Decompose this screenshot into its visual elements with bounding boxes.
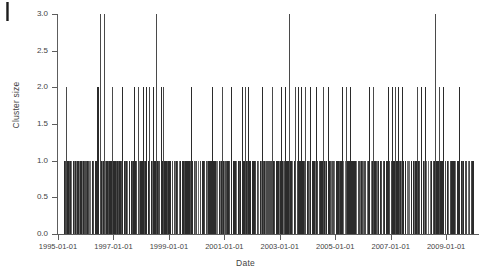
data-spike xyxy=(191,87,192,234)
x-tick-mark xyxy=(169,235,170,240)
data-spike xyxy=(104,14,105,234)
data-spike xyxy=(138,87,139,234)
y-tick-mark xyxy=(52,51,57,52)
data-spike xyxy=(445,161,446,234)
data-spike xyxy=(473,161,474,234)
data-spike xyxy=(204,161,205,234)
data-spike xyxy=(350,87,351,234)
data-spike xyxy=(421,87,422,234)
x-axis-title: Date xyxy=(0,258,491,268)
data-spike xyxy=(231,87,232,234)
data-spike xyxy=(439,87,440,234)
data-spike xyxy=(395,87,396,234)
y-tick-mark xyxy=(52,87,57,88)
data-spike xyxy=(316,87,317,234)
data-spike xyxy=(272,87,273,234)
data-spike xyxy=(122,87,123,234)
x-tick-mark xyxy=(58,235,59,240)
data-spike xyxy=(425,87,426,234)
data-spike xyxy=(381,161,382,234)
plot-area xyxy=(58,14,478,234)
data-spike xyxy=(177,161,178,234)
y-axis-title: Cluster size xyxy=(11,65,21,145)
data-spike xyxy=(146,87,147,234)
data-spike xyxy=(459,87,460,234)
data-spike xyxy=(198,161,199,234)
y-tick-mark xyxy=(52,234,57,235)
x-tick-mark xyxy=(335,235,336,240)
data-spike xyxy=(149,87,150,234)
x-tick-mark xyxy=(224,235,225,240)
data-spike xyxy=(163,87,164,234)
data-spike xyxy=(129,161,130,234)
data-spike xyxy=(192,161,193,234)
data-spike xyxy=(310,87,311,234)
y-tick-label: 0.0 xyxy=(18,230,48,238)
data-spike xyxy=(262,87,263,234)
data-spike xyxy=(435,14,436,234)
data-spike xyxy=(305,87,306,234)
data-spike xyxy=(443,87,444,234)
figure: Cluster size Date 0.00.51.01.52.02.53.0 … xyxy=(0,0,491,279)
data-spike xyxy=(134,87,135,234)
data-spike xyxy=(342,87,343,234)
data-spike xyxy=(373,87,374,234)
data-spike xyxy=(430,161,431,234)
data-spike xyxy=(417,87,418,234)
y-tick-label: 3.0 xyxy=(18,10,48,18)
data-spike xyxy=(346,87,347,234)
y-tick-mark xyxy=(52,197,57,198)
data-spike xyxy=(200,161,201,234)
data-spike xyxy=(180,161,181,234)
y-tick-mark xyxy=(52,161,57,162)
data-spike xyxy=(143,87,144,234)
data-spike xyxy=(245,87,246,234)
data-spike xyxy=(377,161,378,234)
data-spike xyxy=(392,87,393,234)
data-spike xyxy=(289,14,290,234)
data-spike xyxy=(402,87,403,234)
data-spike xyxy=(222,87,223,234)
y-tick-label: 2.0 xyxy=(18,83,48,91)
data-spike xyxy=(281,87,282,234)
data-spike xyxy=(258,161,259,234)
data-spike xyxy=(212,87,213,234)
data-spike xyxy=(301,87,302,234)
data-spike xyxy=(66,87,67,234)
data-spike xyxy=(295,87,296,234)
data-spike xyxy=(398,87,399,234)
y-tick-mark xyxy=(52,14,57,15)
data-spike xyxy=(100,14,101,234)
data-spike xyxy=(274,161,275,234)
data-spike xyxy=(426,161,427,234)
y-tick-mark xyxy=(52,124,57,125)
data-spike xyxy=(159,161,160,234)
data-spike xyxy=(153,87,154,234)
data-spike xyxy=(369,87,370,234)
y-tick-label: 2.5 xyxy=(18,47,48,55)
data-spike xyxy=(156,14,157,234)
x-tick-mark xyxy=(113,235,114,240)
x-axis-line xyxy=(58,234,479,235)
data-spike xyxy=(242,87,243,234)
x-tick-mark xyxy=(446,235,447,240)
data-spike xyxy=(388,87,389,234)
data-spike xyxy=(248,87,249,234)
x-tick-label: 2009-01-01 xyxy=(411,243,481,251)
data-spike xyxy=(255,161,256,234)
data-spike xyxy=(161,87,162,234)
data-spike xyxy=(217,161,218,234)
data-spike xyxy=(285,87,286,234)
page-crop-mark xyxy=(6,2,9,21)
y-tick-label: 0.5 xyxy=(18,193,48,201)
data-spike xyxy=(323,87,324,234)
x-tick-mark xyxy=(391,235,392,240)
data-spike xyxy=(188,161,189,234)
data-spike xyxy=(292,161,293,234)
data-spike xyxy=(409,161,410,234)
y-tick-label: 1.0 xyxy=(18,157,48,165)
data-spike xyxy=(112,87,113,234)
y-tick-label: 1.5 xyxy=(18,120,48,128)
data-spike xyxy=(328,87,329,234)
x-tick-mark xyxy=(280,235,281,240)
